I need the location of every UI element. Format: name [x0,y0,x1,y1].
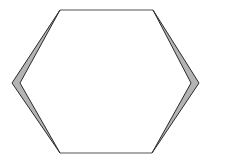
hexagon-svg [0,0,230,166]
hexagon-diagram [0,0,230,166]
